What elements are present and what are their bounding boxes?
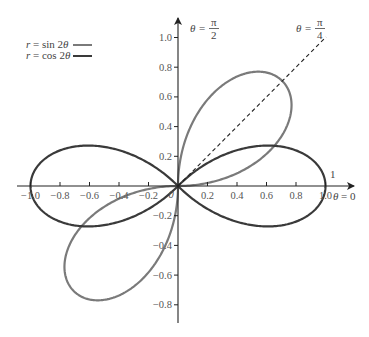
y-tick-label: 0.8: [159, 62, 172, 73]
axis-tick-labels: −1.0−0.8−0.6−0.4−0.20.20.40.60.81.01.00.…: [21, 32, 332, 310]
y-tick-label: 0.4: [159, 121, 173, 132]
x-tick-label: −0.6: [80, 190, 99, 201]
x-tick-label: −0.8: [50, 190, 69, 201]
svg-text:π: π: [317, 16, 323, 28]
svg-text:r = cos 2θ: r = cos 2θ: [26, 49, 71, 61]
legend-item-cos: r = cos 2θ: [26, 49, 92, 61]
svg-text:4: 4: [317, 29, 323, 41]
svg-text:=: =: [305, 22, 311, 34]
x-tick-label: 0.6: [260, 190, 273, 201]
polar-plot: −1.0−0.8−0.6−0.4−0.20.20.40.60.81.01.00.…: [0, 0, 369, 337]
y-tick-label: −0.8: [153, 299, 172, 310]
y-tick-label: 0.2: [159, 151, 172, 162]
theta-pi-over-2-label: θ = π 2: [190, 16, 219, 41]
origin-label: 0: [168, 189, 174, 200]
svg-text:= 0: = 0: [341, 190, 356, 202]
svg-text:π: π: [211, 16, 217, 28]
r-one-label: 1: [330, 168, 336, 180]
x-tick-label: −1.0: [21, 190, 40, 201]
theta-pi-over-4-label: θ = π 4: [296, 16, 325, 41]
x-tick-label: −0.4: [109, 190, 129, 201]
svg-text:θ: θ: [190, 22, 196, 34]
y-tick-label: −0.4: [153, 240, 173, 251]
legend: r = sin 2θ r = cos 2θ: [26, 38, 92, 61]
x-tick-label: 0.2: [201, 190, 214, 201]
svg-text:2: 2: [211, 29, 217, 41]
svg-text:θ: θ: [333, 190, 339, 202]
x-tick-label: −0.2: [139, 190, 158, 201]
x-tick-label: 1.0: [319, 190, 332, 201]
y-tick-label: −0.6: [153, 270, 172, 281]
svg-text:=: =: [199, 22, 205, 34]
svg-text:θ: θ: [296, 22, 302, 34]
theta-zero-label: θ = 0: [333, 190, 356, 202]
y-tick-label: 1.0: [159, 32, 172, 43]
x-tick-label: 0.4: [230, 190, 244, 201]
y-tick-label: 0.6: [159, 91, 172, 102]
x-tick-label: 0.8: [289, 190, 302, 201]
y-tick-label: −0.2: [153, 210, 172, 221]
theta-pi-over-4-ray: [178, 37, 326, 186]
